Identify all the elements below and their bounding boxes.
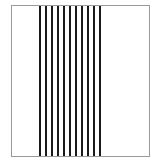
grating-line	[57, 6, 59, 156]
figure-root	[0, 0, 162, 166]
vertical-line-grating	[12, 6, 149, 156]
grating-line	[81, 6, 83, 156]
grating-line	[93, 6, 95, 156]
grating-line	[99, 6, 101, 156]
grating-line	[63, 6, 65, 156]
grating-line	[45, 6, 47, 156]
grating-line	[75, 6, 77, 156]
grating-line	[69, 6, 71, 156]
grating-line	[51, 6, 53, 156]
grating-line	[39, 6, 41, 156]
bounding-box	[11, 5, 150, 157]
grating-line	[87, 6, 89, 156]
